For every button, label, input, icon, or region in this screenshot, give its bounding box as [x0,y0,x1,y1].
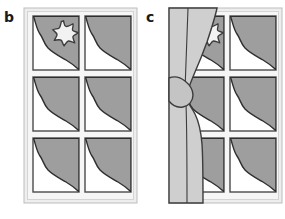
window-pane-top-left [33,16,79,70]
window-pane-bottom-left [33,138,79,192]
window-pane-top-right [85,16,131,70]
window-pane-middle-right [230,77,276,131]
window-pane-middle-left [33,77,79,131]
figure-container: b [0,0,285,219]
window-pane-bottom-right [85,138,131,192]
window-pane-bottom-right [230,138,276,192]
window-pane-top-right [230,16,276,70]
panel-b-window-diagram [0,0,143,219]
window-pane-middle-right [85,77,131,131]
panel-c-window-curtain-diagram [143,0,285,219]
